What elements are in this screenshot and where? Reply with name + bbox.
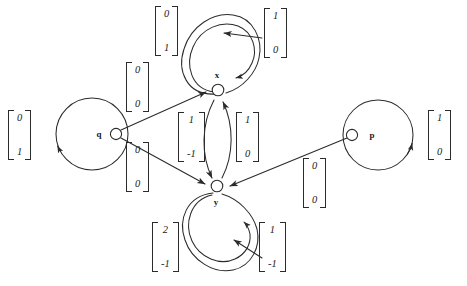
bracket-right (445, 110, 451, 160)
vector-x-to-y-weight: 1 -1 (178, 112, 205, 162)
vector-p-to-y-weight: 0 0 (303, 158, 326, 208)
vector-entry-top: 1 (245, 115, 250, 126)
vector-q-to-x-weight: 0 0 (126, 62, 149, 112)
vector-y-self-loop-weight: 2 -1 (152, 222, 179, 272)
bracket-right (320, 158, 326, 208)
vector-entry-bottom: 0 (437, 147, 442, 158)
node-y-dot[interactable] (211, 180, 223, 192)
vector-x-inbound-weight: 1 0 (264, 8, 287, 58)
vector-entry-top: 1 (273, 11, 278, 22)
graph-figure: x y (0, 0, 467, 286)
vector-entry-bottom: 1 (164, 43, 169, 54)
vector-q-to-y-weight: 0 0 (126, 142, 149, 192)
bracket-right (173, 222, 179, 272)
vector-entry-top: 0 (164, 9, 169, 20)
vector-entry-top: 0 (17, 113, 22, 124)
vector-q-self-loop-weight: 0 1 (8, 110, 31, 160)
bracket-right (172, 6, 178, 56)
node-x-dot[interactable] (212, 84, 224, 96)
vector-y-to-x-weight: 1 0 (236, 112, 259, 162)
vector-x-self-loop-weight: 0 1 (155, 6, 178, 56)
node-x-loops[interactable]: x (182, 15, 262, 95)
bracket-right (281, 8, 287, 58)
node-p-label: p (369, 130, 374, 140)
vector-entry-bottom: 0 (135, 99, 140, 110)
vector-entry-bottom: 0 (135, 179, 140, 190)
bracket-right (143, 62, 149, 112)
vector-entry-top: 0 (135, 145, 140, 156)
node-y-label: y (214, 197, 219, 207)
vector-p-self-loop-weight: 1 0 (428, 110, 451, 160)
node-p-port[interactable] (346, 129, 357, 140)
vector-entry-bottom: -1 (268, 259, 277, 270)
edge-x-y-pair[interactable] (204, 100, 231, 178)
vector-entry-bottom: 1 (17, 147, 22, 158)
node-q-port[interactable] (110, 128, 121, 139)
vector-entry-bottom: 0 (245, 149, 250, 160)
bracket-right (199, 112, 205, 162)
bracket-right (253, 112, 259, 162)
bracket-right (25, 110, 31, 160)
vector-entry-top: 1 (437, 113, 442, 124)
node-y-loops[interactable]: y (183, 193, 262, 271)
vector-y-inbound-weight: 1 -1 (259, 222, 286, 272)
vector-entry-top: 2 (163, 225, 168, 236)
bracket-right (280, 222, 286, 272)
node-x-label: x (215, 70, 220, 80)
vector-entry-top: 0 (135, 65, 140, 76)
node-q-label: q (96, 129, 101, 139)
vector-entry-bottom: 0 (273, 45, 278, 56)
bracket-right (143, 142, 149, 192)
vector-entry-top: 0 (312, 161, 317, 172)
vector-entry-bottom: 0 (312, 195, 317, 206)
vector-entry-top: 1 (270, 225, 275, 236)
diagram-canvas: x y (0, 0, 467, 286)
vector-entry-bottom: -1 (187, 149, 196, 160)
vector-entry-bottom: -1 (161, 259, 170, 270)
vector-entry-top: 1 (189, 115, 194, 126)
